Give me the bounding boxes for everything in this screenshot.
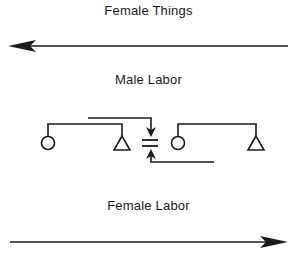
arrow-male-labor-out [146, 149, 214, 162]
kinship-exchange-diagram [0, 0, 297, 271]
male-triangle-icon [248, 136, 264, 150]
female-circle-icon [172, 137, 185, 150]
kinship-group-right [172, 124, 265, 150]
kinship-group-left [42, 124, 131, 150]
marriage-equals-icon [142, 140, 158, 146]
arrow-left-female-things [8, 40, 288, 52]
female-circle-icon [42, 137, 55, 150]
arrow-right-female-labor [10, 236, 288, 248]
male-triangle-icon [114, 136, 130, 150]
